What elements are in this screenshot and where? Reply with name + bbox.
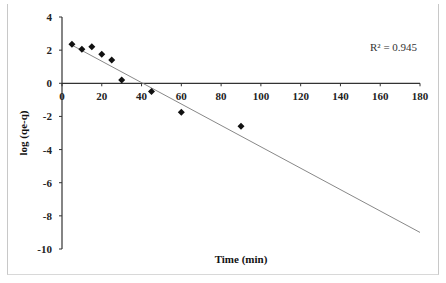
x-tick-label: 160 [372, 90, 389, 102]
x-axis-label: Time (min) [215, 253, 268, 266]
y-tick-label: 0 [47, 77, 53, 89]
data-point [108, 57, 115, 64]
x-tick-label: 180 [412, 90, 429, 102]
y-tick-label: -4 [43, 144, 53, 156]
x-tick-label: 140 [332, 90, 349, 102]
data-point [238, 123, 245, 130]
x-tick-label: 40 [136, 90, 148, 102]
x-tick-label: 80 [216, 90, 228, 102]
data-point [178, 109, 185, 116]
y-axis-label: log (qe-q) [17, 110, 30, 155]
x-tick-label: 60 [176, 90, 188, 102]
y-tick-label: -8 [43, 210, 53, 222]
x-tick-label: 20 [96, 90, 108, 102]
r-squared-annotation: R² = 0.945 [370, 41, 418, 53]
x-tick-label: 100 [253, 90, 270, 102]
y-tick-label: 2 [47, 44, 53, 56]
data-point [98, 51, 105, 58]
y-tick-label: -2 [43, 110, 53, 122]
data-point [118, 76, 125, 83]
scatter-chart: 420-2-4-6-8-10020406080100120140160180lo… [0, 0, 446, 283]
x-tick-label: 120 [292, 90, 309, 102]
data-point [88, 43, 95, 50]
x-tick-label: 0 [59, 90, 65, 102]
y-tick-label: -6 [43, 177, 53, 189]
y-tick-label: -10 [37, 243, 52, 255]
trendline [72, 45, 420, 232]
y-tick-label: 4 [47, 11, 53, 23]
